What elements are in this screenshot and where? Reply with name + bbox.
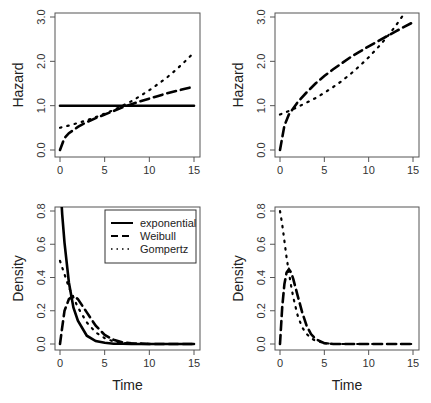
panel-bottom-left: 0510150.00.20.40.60.8DensityTimeexponent… — [10, 178, 200, 393]
series-weibull — [280, 22, 413, 150]
y-tick-label: 2.0 — [255, 54, 267, 69]
y-tick-label: 3.0 — [255, 9, 267, 24]
x-tick-label: 0 — [57, 357, 63, 369]
y-tick-label: 1.0 — [255, 98, 267, 113]
panel-top-right: 0510150.01.02.03.0Hazard — [230, 0, 419, 176]
y-tick-label: 0.0 — [35, 142, 47, 157]
y-tick-label: 0.8 — [35, 203, 47, 218]
y-tick-label: 0.2 — [35, 303, 47, 318]
y-axis-label: Density — [230, 255, 246, 302]
y-tick-label: 0.0 — [35, 336, 47, 351]
y-tick-label: 0.0 — [255, 336, 267, 351]
x-tick-label: 15 — [407, 164, 419, 176]
series-gompertz — [60, 53, 194, 128]
series-weibull — [60, 296, 194, 344]
y-tick-label: 0.8 — [255, 203, 267, 218]
x-axis-label: Time — [112, 377, 143, 393]
y-tick-label: 1.0 — [35, 98, 47, 113]
x-tick-label: 0 — [277, 357, 283, 369]
x-tick-label: 5 — [321, 357, 327, 369]
y-tick-label: 2.0 — [35, 54, 47, 69]
x-tick-label: 10 — [363, 164, 375, 176]
figure: 0510150.01.02.03.0Hazard0510150.01.02.03… — [0, 0, 431, 403]
x-tick-label: 10 — [143, 164, 155, 176]
y-tick-label: 0.0 — [255, 142, 267, 157]
x-tick-label: 0 — [277, 164, 283, 176]
y-axis-label: Hazard — [230, 62, 246, 107]
y-tick-label: 0.2 — [255, 303, 267, 318]
series-weibull — [60, 87, 194, 150]
y-tick-label: 0.6 — [255, 237, 267, 252]
y-axis-label: Hazard — [10, 62, 26, 107]
y-axis-label: Density — [10, 255, 26, 302]
legend: exponentialWeibullGompertz — [105, 210, 196, 263]
legend-entry: Weibull — [140, 230, 176, 242]
x-tick-label: 5 — [102, 357, 108, 369]
plot-frame — [275, 207, 419, 350]
x-tick-label: 15 — [407, 357, 419, 369]
y-tick-label: 0.4 — [255, 270, 267, 285]
y-tick-label: 0.6 — [35, 237, 47, 252]
plot-frame — [275, 13, 419, 157]
panel-bottom-right: 0510150.00.20.40.60.8DensityTime — [230, 203, 419, 393]
x-tick-label: 15 — [188, 164, 200, 176]
panel-top-left: 0510150.01.02.03.0Hazard — [10, 9, 200, 176]
y-tick-label: 3.0 — [35, 9, 47, 24]
x-tick-label: 5 — [321, 164, 327, 176]
series-weibull — [280, 269, 413, 344]
x-tick-label: 5 — [102, 164, 108, 176]
y-tick-label: 0.4 — [35, 270, 47, 285]
x-tick-label: 0 — [57, 164, 63, 176]
legend-entry: exponential — [140, 217, 196, 229]
x-tick-label: 15 — [188, 357, 200, 369]
x-tick-label: 10 — [143, 357, 155, 369]
plot-frame — [55, 13, 200, 157]
series-gompertz — [280, 0, 413, 114]
x-tick-label: 10 — [363, 357, 375, 369]
legend-entry: Gompertz — [140, 243, 188, 255]
x-axis-label: Time — [332, 377, 363, 393]
series-gompertz — [280, 211, 413, 344]
